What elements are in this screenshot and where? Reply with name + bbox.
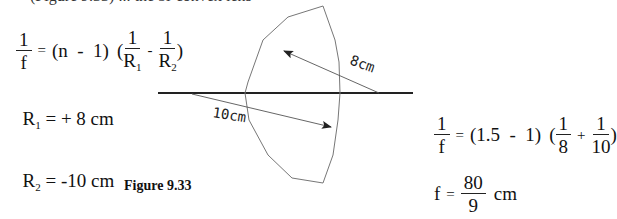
close-paren: ): [611, 124, 617, 146]
numerator: 1: [593, 114, 609, 135]
denominator: f: [439, 135, 445, 156]
fraction-80-over-9: 80 9: [461, 173, 486, 215]
focal-length-result: f = 80 9 cm: [434, 173, 517, 215]
substituted-formula: 1 f = (1.5 - 1) ( 1 8 + 1 10 ): [434, 114, 617, 156]
denominator: 8: [559, 135, 569, 156]
numerator: 80: [461, 173, 486, 194]
numerator: 1: [434, 114, 450, 135]
label-10cm: 10cm: [212, 104, 248, 125]
unit-cm: cm: [494, 183, 517, 205]
f-symbol: f: [434, 183, 440, 205]
plus-sign: +: [577, 127, 585, 144]
denominator: 9: [469, 194, 479, 215]
fraction-1-over-f: 1 f: [434, 114, 450, 156]
denominator: 10: [592, 135, 611, 156]
numerator: 1: [556, 114, 572, 135]
refractive-factor: (1.5 - 1): [470, 124, 541, 146]
fraction-1-over-10: 1 10: [592, 114, 611, 156]
fraction-1-over-8: 1 8: [556, 114, 572, 156]
equals-sign: =: [446, 186, 454, 203]
equals-sign: =: [456, 127, 464, 144]
label-8cm: 8cm: [348, 52, 377, 76]
lens-outline: [245, 6, 340, 183]
